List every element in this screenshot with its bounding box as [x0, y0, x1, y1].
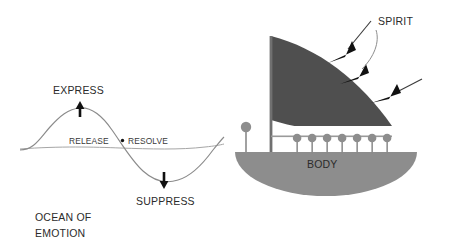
deck-pin-icon — [383, 134, 392, 154]
body-label: BODY — [307, 158, 338, 170]
mast-icon — [270, 36, 273, 153]
emotion-wave-curve — [20, 108, 224, 182]
wind-arrow-top-icon — [328, 21, 371, 63]
ocean-of-emotion-group: EXPRESS SUPPRESS RELEASE RESOLVE OCEAN O… — [20, 84, 224, 239]
express-label: EXPRESS — [53, 84, 104, 96]
deck-pin-icon — [323, 134, 332, 154]
suppress-label: SUPPRESS — [136, 195, 195, 207]
bow-pin-icon — [241, 122, 251, 152]
deck-pin-icon — [368, 134, 377, 154]
spirit-label: SPIRIT — [378, 15, 413, 27]
deck-pin-icon — [353, 134, 362, 154]
release-resolve-separator-dot — [121, 139, 124, 142]
wind-arrow-bottom-icon — [371, 79, 422, 103]
resolve-label: RESOLVE — [128, 136, 168, 146]
ocean-caption-line-2: EMOTION — [35, 227, 85, 239]
diagram-svg: EXPRESS SUPPRESS RELEASE RESOLVE OCEAN O… — [0, 0, 455, 249]
deck-pin-icon — [293, 134, 302, 154]
sail-icon — [271, 36, 392, 126]
deck-pin-icon — [338, 134, 347, 154]
express-arrow-up-icon — [76, 101, 85, 117]
sailboat-group: BODY SPIRIT — [235, 15, 422, 196]
ocean-caption-line-1: OCEAN OF — [35, 211, 91, 223]
release-label: RELEASE — [69, 136, 109, 146]
deck-pin-icon — [308, 134, 317, 154]
diagram-canvas: EXPRESS SUPPRESS RELEASE RESOLVE OCEAN O… — [0, 0, 455, 249]
spirit-leader-line-icon — [362, 30, 377, 69]
